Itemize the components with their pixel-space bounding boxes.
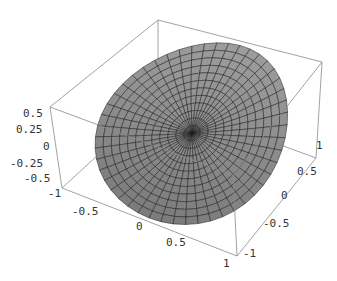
y-axis-tick-label: 0 xyxy=(281,190,288,201)
z-axis-tick-label: -0.25 xyxy=(10,158,43,169)
surface-mesh xyxy=(95,43,288,225)
y-axis-tick-label: -0.5 xyxy=(263,218,290,229)
x-axis-tick-label: 0 xyxy=(136,221,143,232)
z-axis-tick-label: -0.5 xyxy=(24,173,51,184)
z-axis-tick-label: 0 xyxy=(43,141,50,152)
z-axis-tick-label: 0.5 xyxy=(23,108,43,119)
z-axis-tick-label: 0.25 xyxy=(16,124,43,135)
y-axis-tick-label: 1 xyxy=(316,140,323,151)
y-axis-tick-label: -1 xyxy=(243,248,256,259)
x-axis-tick-label: 0.5 xyxy=(166,237,186,248)
y-axis-tick-label: 0.5 xyxy=(297,166,317,177)
x-axis-tick-label: -1 xyxy=(48,188,61,199)
x-axis-tick-label: -0.5 xyxy=(72,206,99,217)
x-axis-tick-label: 1 xyxy=(223,258,230,269)
